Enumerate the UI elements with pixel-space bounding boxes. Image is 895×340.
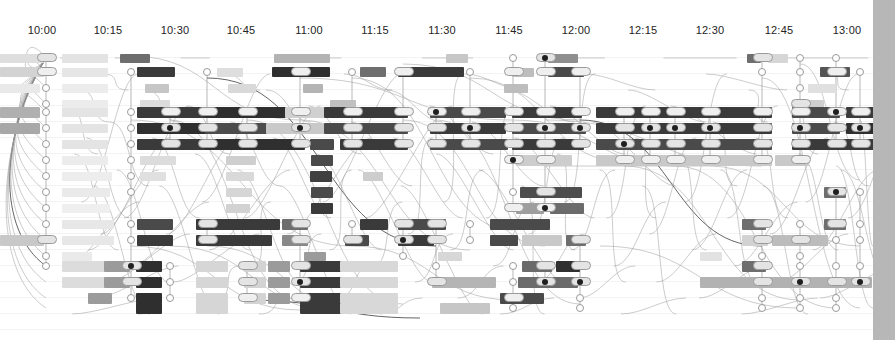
milestone-node[interactable] [42,100,50,108]
task-bar[interactable] [226,172,254,181]
milestone-dot[interactable] [577,279,583,285]
milestone-node[interactable] [166,294,174,302]
milestone-dot[interactable] [542,125,548,131]
task-pill-marker[interactable] [827,123,847,132]
milestone-node[interactable] [127,294,135,302]
milestone-node[interactable] [127,140,135,148]
milestone-dot[interactable] [672,125,678,131]
milestone-node[interactable] [856,220,864,228]
task-bar[interactable] [140,172,166,181]
task-pill-marker[interactable] [827,139,847,148]
task-bar[interactable] [504,84,528,93]
milestone-node[interactable] [509,54,517,62]
task-pill-marker[interactable] [343,123,363,132]
task-bar[interactable] [226,156,256,165]
milestone-node[interactable] [127,108,135,116]
task-bar[interactable] [226,188,252,197]
task-bar[interactable] [62,236,114,245]
milestone-node[interactable] [509,188,517,196]
milestone-dot[interactable] [297,279,303,285]
task-pill-marker[interactable] [666,107,686,116]
task-pill-marker[interactable] [536,139,556,148]
task-pill-marker[interactable] [753,235,773,244]
task-pill-marker[interactable] [238,261,258,270]
milestone-node[interactable] [399,252,407,260]
task-pill-marker[interactable] [198,235,218,244]
milestone-node[interactable] [42,124,50,132]
task-bar[interactable] [145,84,169,93]
milestone-node[interactable] [42,252,50,260]
milestone-node[interactable] [509,278,517,286]
vertical-scrollbar[interactable] [873,0,895,340]
task-bar[interactable] [196,261,228,272]
task-pill-marker[interactable] [427,235,447,244]
milestone-node[interactable] [758,304,766,312]
task-pill-marker[interactable] [161,107,181,116]
task-pill-marker[interactable] [427,139,447,148]
milestone-node[interactable] [796,54,804,62]
task-bar[interactable] [228,84,256,93]
task-bar[interactable] [310,171,332,182]
milestone-node[interactable] [576,304,584,312]
gantt-plot-area[interactable] [0,44,873,340]
milestone-node[interactable] [42,108,50,116]
task-bar[interactable] [120,54,150,63]
task-bar[interactable] [136,293,162,304]
milestone-node[interactable] [127,156,135,164]
milestone-dot[interactable] [857,125,863,131]
task-pill-marker[interactable] [343,235,363,244]
task-bar[interactable] [88,293,112,304]
milestone-node[interactable] [127,124,135,132]
task-pill-marker[interactable] [791,155,811,164]
task-bar[interactable] [700,252,722,261]
task-bar[interactable] [62,108,108,117]
task-pill-marker[interactable] [37,53,57,62]
task-bar[interactable] [62,252,92,261]
task-bar[interactable] [62,68,108,77]
milestone-node[interactable] [348,220,356,228]
task-pill-marker[interactable] [291,139,311,148]
milestone-node[interactable] [758,294,766,302]
milestone-node[interactable] [127,172,135,180]
task-bar[interactable] [62,172,112,181]
milestone-node[interactable] [42,140,50,148]
milestone-node[interactable] [796,84,804,92]
task-bar[interactable] [268,293,290,304]
task-bar[interactable] [340,261,398,272]
task-pill-marker[interactable] [504,107,524,116]
task-pill-marker[interactable] [571,67,591,76]
milestone-dot[interactable] [647,125,653,131]
task-pill-marker[interactable] [536,261,556,270]
milestone-dot[interactable] [707,125,713,131]
milestone-node[interactable] [127,220,135,228]
milestone-dot[interactable] [542,205,548,211]
task-pill-marker[interactable] [343,107,363,116]
milestone-node[interactable] [166,262,174,270]
milestone-node[interactable] [796,294,804,302]
task-bar[interactable] [311,203,333,214]
milestone-dot[interactable] [621,141,627,147]
task-bar[interactable] [62,188,110,197]
task-pill-marker[interactable] [536,187,556,196]
task-pill-marker[interactable] [571,107,591,116]
milestone-node[interactable] [166,278,174,286]
task-bar[interactable] [340,277,398,288]
milestone-node[interactable] [509,304,517,312]
task-pill-marker[interactable] [461,107,481,116]
task-pill-marker[interactable] [291,293,311,302]
task-pill-marker[interactable] [198,139,218,148]
task-bar[interactable] [310,139,334,150]
task-pill-marker[interactable] [161,139,181,148]
task-bar[interactable] [363,172,383,181]
task-pill-marker[interactable] [827,277,847,286]
task-pill-marker[interactable] [504,67,524,76]
milestone-dot[interactable] [167,125,173,131]
task-bar[interactable] [62,140,108,149]
task-pill-marker[interactable] [238,293,258,302]
milestone-node[interactable] [796,252,804,260]
task-pill-marker[interactable] [461,139,481,148]
task-pill-marker[interactable] [701,107,721,116]
task-pill-marker[interactable] [504,203,524,212]
task-pill-marker[interactable] [753,53,773,62]
scrollbar-thumb[interactable] [876,2,892,320]
